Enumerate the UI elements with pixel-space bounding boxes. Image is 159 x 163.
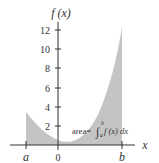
annotation-integrand: f (x) dx <box>104 126 128 136</box>
y-tick-label-2: 2 <box>45 121 50 132</box>
y-tick-label-4: 4 <box>45 102 50 113</box>
x-axis-label: x <box>141 138 148 152</box>
x-tick-label-b: b <box>119 150 125 163</box>
x-tick-label-0: 0 <box>56 152 61 163</box>
y-tick-label-10: 10 <box>40 44 50 55</box>
y-tick-label-8: 8 <box>45 63 50 74</box>
integral-lower-limit: a <box>100 132 103 138</box>
y-axis-label: f (x) <box>51 6 71 20</box>
y-tick-label-6: 6 <box>45 83 50 94</box>
x-tick-label-a: a <box>23 150 29 163</box>
annotation-area-label: area= <box>72 126 91 136</box>
y-tick-label-12: 12 <box>40 25 50 36</box>
area-under-curve-chart: 2 4 6 8 10 12 f (x) x a 0 b area= ∫ b a … <box>0 0 159 163</box>
